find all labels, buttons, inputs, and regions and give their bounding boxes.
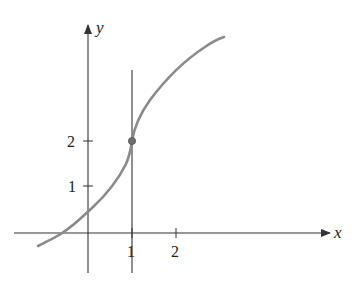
y-tick-label-1: 1 — [68, 178, 76, 195]
x-tick-label-1: 1 — [127, 243, 135, 260]
y-tick-label-2: 2 — [67, 133, 75, 150]
data-point-1-2 — [128, 137, 135, 144]
y-axis-label: y — [94, 18, 104, 37]
x-tick-label-2: 2 — [171, 243, 179, 260]
function-graph: x y 1 2 1 2 — [0, 0, 354, 283]
x-axis-label: x — [333, 223, 342, 242]
